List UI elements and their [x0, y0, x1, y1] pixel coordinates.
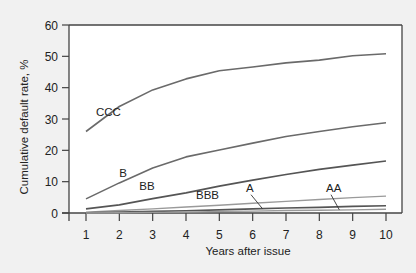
x-tick-label: 9: [349, 228, 356, 242]
x-tick-label: 4: [183, 228, 190, 242]
y-tick-label: 10: [45, 175, 59, 189]
y-tick-label: 50: [45, 50, 59, 64]
x-tick-label: 1: [83, 228, 90, 242]
plot-area: [69, 25, 402, 213]
y-tick-label: 60: [45, 19, 59, 33]
x-axis-title: Years after issue: [205, 245, 290, 257]
x-tick-label: 10: [379, 228, 393, 242]
x-tick-label: 5: [216, 228, 223, 242]
y-axis-title: Cumulative default rate, %: [18, 60, 30, 195]
y-tick-label: 20: [45, 144, 59, 158]
series-label-aa: AA: [326, 182, 342, 194]
series-label-bbb: BBB: [196, 189, 219, 201]
y-tick-label: 30: [45, 113, 59, 127]
y-tick-label: 0: [51, 207, 58, 221]
y-tick-label: 40: [45, 81, 59, 95]
series-label-a: A: [246, 182, 254, 194]
series-label-b: B: [119, 167, 127, 179]
series-label-ccc: CCC: [96, 106, 121, 118]
x-tick-label: 2: [116, 228, 123, 242]
y-axis: 0102030405060: [45, 19, 69, 222]
x-tick-label: 7: [283, 228, 290, 242]
x-tick-label: 6: [249, 228, 256, 242]
default-rate-chart: 0102030405060 12345678910 CCCBBBBBBAAA C…: [0, 0, 416, 273]
x-axis: 12345678910: [62, 213, 402, 242]
x-tick-label: 8: [316, 228, 323, 242]
x-tick-label: 3: [149, 228, 156, 242]
series-label-bb: BB: [139, 180, 155, 192]
